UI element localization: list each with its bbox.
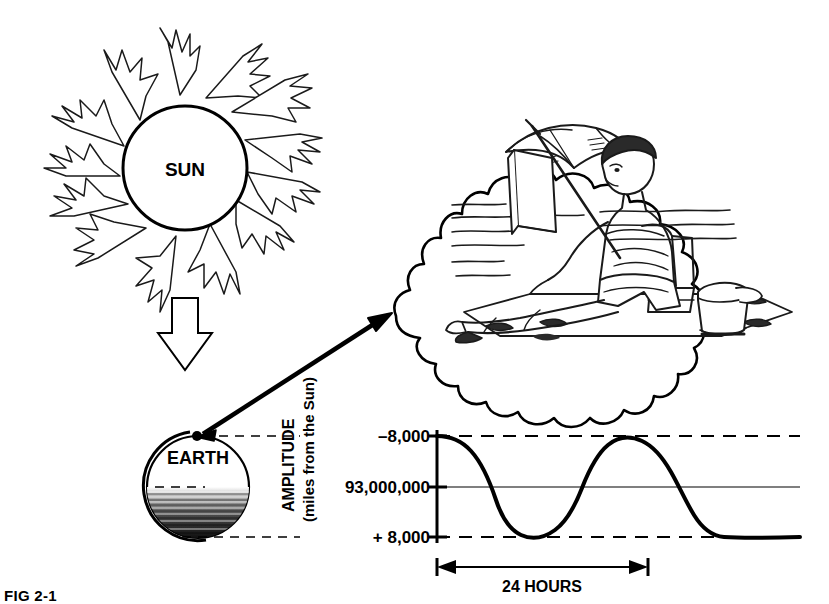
chart-y-axis-label-secondary: (miles from the Sun) (300, 377, 317, 522)
period-span-indicator: 24 HOURS (437, 558, 648, 595)
sunlight-down-arrow (158, 298, 212, 370)
period-span-label: 24 HOURS (502, 578, 582, 595)
earth-group: EARTH (143, 431, 249, 541)
sun-label: SUN (165, 159, 205, 180)
chart-y-axis-label-primary: AMPLITUDE (280, 418, 297, 512)
chart-ytick-label-bottom: + 8,000 (373, 528, 430, 547)
earth-label: EARTH (167, 448, 229, 468)
chart-ytick-label-middle: 93,000,000 (345, 478, 430, 497)
figure-caption: FIG 2-1 (4, 587, 57, 604)
thought-bubble (394, 120, 792, 427)
chart-ytick-label-top: –8,000 (378, 427, 430, 446)
sun-earth-circadian-figure: SUN (0, 0, 829, 604)
sun-group: SUN (44, 28, 322, 312)
figure-canvas: SUN (0, 0, 829, 604)
earth-night-shading (147, 487, 249, 538)
